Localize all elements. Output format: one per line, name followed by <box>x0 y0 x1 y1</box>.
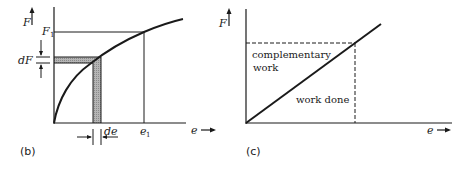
dF-label: dF <box>18 54 33 67</box>
y-axis-label: F <box>22 16 31 29</box>
F1-subscript: 1 <box>50 31 54 39</box>
complementary-work-label-line1: complementary <box>252 49 331 60</box>
right-arrow-icon <box>201 128 216 133</box>
panel-caption-c: (c) <box>246 145 261 158</box>
y-axis-label-c: F <box>218 17 227 30</box>
work-done-label: work done <box>296 94 349 105</box>
x-axis-label: e <box>191 124 198 137</box>
panel-c: F complementary work work done e (c) <box>218 8 452 158</box>
figure-canvas: F F 1 dF de e 1 <box>0 0 471 171</box>
dF-dimension-arrows <box>36 40 50 78</box>
panel-caption-b: (b) <box>20 145 36 158</box>
force-extension-curve <box>54 19 183 123</box>
e1-subscript: 1 <box>146 131 150 139</box>
x-axis-label-c: e <box>427 124 434 137</box>
de-strip <box>93 63 101 123</box>
de-label: de <box>104 125 118 138</box>
F1-label: F <box>41 25 50 38</box>
linear-force-line <box>246 24 381 123</box>
right-arrow-icon <box>437 128 451 133</box>
complementary-work-label-line2: work <box>253 62 279 73</box>
up-arrow-icon <box>227 8 232 26</box>
panel-b: F F 1 dF de e 1 <box>18 7 216 158</box>
